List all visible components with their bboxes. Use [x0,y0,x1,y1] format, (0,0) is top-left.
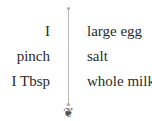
fleuron-ornament-icon: ❦ [60,106,77,120]
ingredient-name: whole milk [87,71,152,91]
ingredient-name: salt [87,46,108,66]
ingredient-name: large egg [87,21,142,41]
ingredient-quantity: pinch [17,46,50,66]
ingredient-row: pinch salt [0,46,152,66]
ingredient-row: I Tbsp whole milk [0,71,152,91]
ingredient-quantity: I [45,21,50,41]
ingredient-row: I large egg [0,21,152,41]
ingredient-quantity: I Tbsp [12,71,50,91]
